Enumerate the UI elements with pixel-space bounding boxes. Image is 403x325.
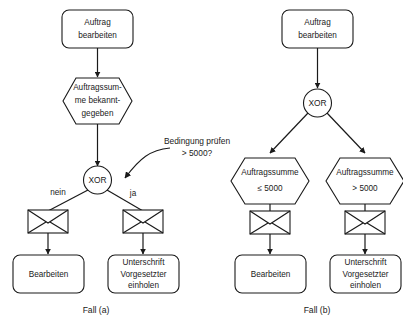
case-a-function-top-box[interactable] — [62, 10, 133, 48]
case-b-edge-xor-right — [327, 113, 365, 153]
case-a-branch-right-label: ja — [129, 189, 137, 198]
case-a-branch-left-label: nein — [50, 188, 66, 197]
case-b-function-right-line2: Vorgesetzter — [343, 270, 389, 279]
case-b-event-left-line2: ≤ 5000 — [258, 184, 283, 193]
case-a-event-top-line1: Auftragssum- — [73, 83, 122, 92]
case-a-xor-label: XOR — [88, 175, 106, 185]
case-b-function-top-line1: Auftrag — [304, 18, 331, 27]
case-a-function-right-line1: Unterschrift — [123, 258, 166, 267]
case-b-edge-xor-left — [270, 113, 308, 153]
epc-diagram: Auftrag bearbeiten Auftragssum- me bekan… — [0, 0, 403, 325]
case-a-caption: Fall (a) — [83, 305, 110, 315]
case-a-annotation-line1: Bedingung prüfen — [164, 136, 230, 146]
case-a-envelope-right-icon[interactable] — [123, 210, 163, 233]
case-a-edge-xor-right — [107, 190, 143, 211]
case-a-envelope-left-icon[interactable] — [28, 210, 68, 233]
case-b-xor-label: XOR — [308, 98, 326, 108]
case-a-event-top-line3: gegeben — [82, 109, 114, 118]
case-b-envelope-right-icon[interactable] — [345, 211, 385, 234]
case-b-function-top-line2: bearbeiten — [298, 31, 337, 40]
case-b-function-top-box[interactable] — [282, 10, 353, 48]
case-b-event-right-hexagon[interactable] — [326, 158, 403, 204]
case-b-caption: Fall (b) — [304, 305, 331, 315]
case-a-function-top-line2: bearbeiten — [78, 31, 117, 40]
case-a-annotation-arrow — [125, 148, 170, 178]
case-b-event-left-hexagon[interactable] — [231, 158, 309, 204]
case-a-function-right-line3: einholen — [128, 281, 159, 290]
case-b-function-left-line1: Bearbeiten — [251, 270, 291, 279]
case-b-event-left-line1: Auftragssumme — [241, 168, 299, 177]
case-a-event-top-line2: me bekannt- — [75, 96, 121, 105]
case-b-envelope-left-icon[interactable] — [250, 211, 290, 234]
case-a-function-top-line1: Auftrag — [84, 18, 111, 27]
case-b-function-right-line3: einholen — [350, 281, 381, 290]
case-b-event-right-line1: Auftragssumme — [336, 168, 394, 177]
case-b-function-right-line1: Unterschrift — [345, 258, 388, 267]
case-a-function-right-line2: Vorgesetzter — [121, 270, 167, 279]
case-a-annotation-line2: > 5000? — [182, 148, 213, 158]
case-a-function-left-line1: Bearbeiten — [29, 270, 69, 279]
diagram-canvas: Auftrag bearbeiten Auftragssum- me bekan… — [0, 0, 403, 325]
case-b-event-right-line2: > 5000 — [352, 184, 378, 193]
